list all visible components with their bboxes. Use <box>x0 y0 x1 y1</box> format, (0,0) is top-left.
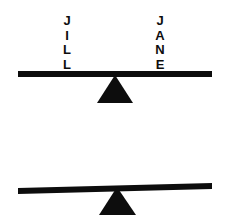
seesaw-bottom: A N N E T O M <box>0 110 225 221</box>
seesaw-top-left-label: J I L L <box>59 10 75 72</box>
label-letter: L <box>63 43 71 58</box>
seesaw-top-right-label: J A N E <box>152 10 168 72</box>
label-letter: J <box>156 14 163 29</box>
label-letter: N <box>155 43 164 58</box>
label-letter: I <box>65 29 69 44</box>
label-letter: J <box>63 14 70 29</box>
fulcrum-top <box>97 75 133 103</box>
label-letter: E <box>156 58 165 73</box>
seesaw-top-graphic <box>0 0 225 110</box>
seesaw-top: J I L L J A N E <box>0 0 225 110</box>
seesaw-bottom-graphic <box>0 110 225 221</box>
label-letter: A <box>155 29 164 44</box>
diagram-canvas: J I L L J A N E A N N E T O M <box>0 0 225 221</box>
label-letter: L <box>63 58 71 73</box>
